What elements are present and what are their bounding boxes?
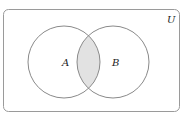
set-a-label: A <box>61 57 69 68</box>
universe-label: U <box>167 14 176 25</box>
set-b-label: B <box>111 57 119 68</box>
venn-diagram: A B U <box>0 0 186 116</box>
